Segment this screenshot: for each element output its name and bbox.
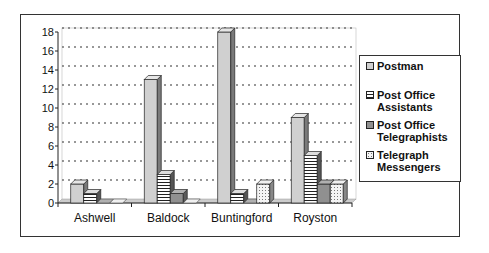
y-tick-label: 8 bbox=[48, 121, 54, 133]
legend-label: Post Office bbox=[377, 119, 435, 131]
y-tick-label: 6 bbox=[48, 140, 54, 152]
legend-swatch-telegraphists bbox=[366, 121, 374, 129]
legend-item-telegraph-messengers: TelegraphMessengers bbox=[366, 149, 460, 173]
legend-item-postman: Postman bbox=[366, 60, 460, 72]
legend-swatch-messengers bbox=[366, 151, 374, 159]
y-tick-label: 12 bbox=[42, 83, 54, 95]
x-category-label: Baldock bbox=[147, 211, 191, 225]
bar bbox=[330, 180, 347, 203]
y-tick-label: 16 bbox=[42, 45, 54, 57]
y-tick-label: 2 bbox=[48, 178, 54, 190]
legend: Postman Post OfficeAssistants Post Offic… bbox=[359, 55, 461, 182]
bar bbox=[257, 180, 274, 203]
legend-item-post-office-telegraphists: Post OfficeTelegraphists bbox=[366, 119, 460, 143]
y-tick-label: 0 bbox=[48, 197, 54, 209]
x-category-label: Royston bbox=[293, 211, 337, 225]
legend-swatch-postman bbox=[366, 62, 374, 70]
y-tick-label: 4 bbox=[48, 159, 54, 171]
bar bbox=[231, 190, 248, 204]
y-tick-label: 10 bbox=[42, 102, 54, 114]
bar bbox=[170, 190, 187, 204]
legend-item-post-office-assistants: Post OfficeAssistants bbox=[366, 89, 460, 113]
legend-label: Messengers bbox=[377, 161, 441, 173]
bar bbox=[218, 28, 235, 203]
bar bbox=[84, 190, 101, 204]
x-category-label: Buntingford bbox=[211, 211, 272, 225]
legend-swatch-assistants bbox=[366, 91, 374, 99]
y-tick-label: 18 bbox=[42, 26, 54, 38]
legend-label: Postman bbox=[377, 60, 423, 72]
legend-label: Telegraphists bbox=[377, 131, 448, 143]
legend-label: Post Office bbox=[377, 89, 435, 101]
y-tick-label: 14 bbox=[42, 64, 54, 76]
x-category-label: Ashwell bbox=[74, 211, 115, 225]
legend-label: Assistants bbox=[377, 101, 433, 113]
legend-label: Telegraph bbox=[377, 149, 429, 161]
